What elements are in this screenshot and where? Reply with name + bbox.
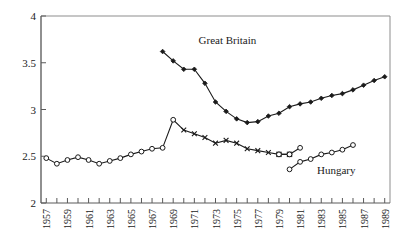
x-tick-label: 1963: [105, 209, 116, 229]
series-hungary: [44, 117, 292, 166]
x-tick-label: 1975: [232, 209, 243, 229]
y-tick-label: 4: [31, 10, 37, 22]
line-chart: 22.533.54 195719591961196319651967196919…: [0, 0, 411, 247]
x-tick-label: 1989: [380, 209, 391, 229]
series-label: Hungary: [317, 164, 356, 176]
x-tick-label: 1983: [316, 209, 327, 229]
x-tick-label: 1973: [211, 209, 222, 229]
x-tick-label: 1969: [168, 209, 179, 229]
x-tick-label: 1965: [126, 209, 137, 229]
y-tick-label: 2.5: [22, 150, 36, 162]
x-tick-label: 1957: [41, 209, 52, 229]
series-hungary-upper-tail: [277, 145, 303, 156]
x-tick-label: 1971: [189, 209, 200, 229]
series-great-britain: [160, 49, 387, 125]
x-tick-label: 1985: [337, 209, 348, 229]
chart-container: 22.533.54 195719591961196319651967196919…: [0, 0, 411, 247]
x-tick-label: 1979: [274, 209, 285, 229]
y-tick-label: 3.5: [22, 57, 36, 69]
data-series-group: [44, 49, 387, 172]
y-axis-ticks: 22.533.54: [22, 10, 46, 209]
x-tick-label: 1967: [147, 209, 158, 229]
x-tick-label: 1981: [295, 209, 306, 229]
x-tick-label: 1959: [62, 209, 73, 229]
y-tick-label: 3: [31, 104, 37, 116]
x-tick-label: 1977: [253, 209, 264, 229]
y-tick-label: 2: [31, 197, 37, 209]
x-tick-label: 1987: [359, 209, 370, 229]
x-tick-label: 1961: [84, 209, 95, 229]
series-label: Great Britain: [199, 34, 257, 46]
